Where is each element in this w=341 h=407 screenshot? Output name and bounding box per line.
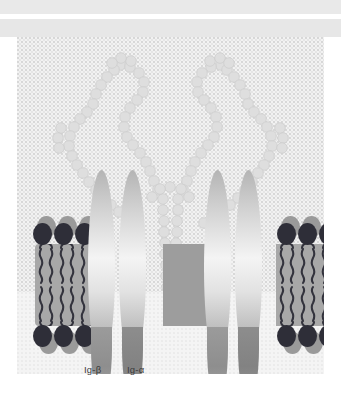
- lipid-head-group: [33, 325, 52, 347]
- extracellular-panel: [17, 37, 324, 374]
- lipid-head-group: [298, 325, 317, 347]
- lipid-head-group: [277, 325, 296, 347]
- lipid-bilayer-right: [276, 244, 324, 326]
- figure-canvas: Ig-β Ig-α: [0, 0, 341, 407]
- header-band-top: [0, 0, 341, 14]
- header-band-bottom: [0, 19, 341, 37]
- lipid-head-group: [33, 223, 52, 245]
- subunit-tail-ig-beta-right: [238, 327, 259, 374]
- label-ig-beta: Ig-β: [84, 364, 101, 375]
- lipid-tails-right: [276, 244, 324, 326]
- lipid-head-group: [277, 223, 296, 245]
- lipid-head-group: [298, 223, 317, 245]
- lipid-head-group: [54, 325, 73, 347]
- lipid-head-group: [54, 223, 73, 245]
- label-ig-alpha: Ig-α: [127, 364, 144, 375]
- subunit-tail-ig-alpha-right: [207, 327, 228, 374]
